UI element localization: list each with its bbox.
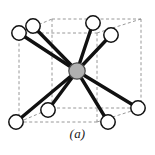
center-atom	[69, 63, 85, 79]
cell-depth-edge	[97, 19, 141, 33]
corner-atom-left-front	[12, 26, 26, 40]
center-atom	[69, 63, 85, 79]
bond-to-corner-4	[77, 71, 138, 108]
corner-atom-top-left-back	[26, 19, 40, 33]
corner-atom-right	[131, 101, 145, 115]
corner-atom-bottom-center	[41, 103, 55, 117]
corner-atom-top-center-back	[86, 16, 100, 30]
bond-to-corner-8	[19, 33, 77, 71]
crystal-structure-figure: (a)	[0, 0, 155, 155]
corner-atom-top-right	[104, 28, 118, 42]
figure-caption: (a)	[0, 126, 155, 142]
